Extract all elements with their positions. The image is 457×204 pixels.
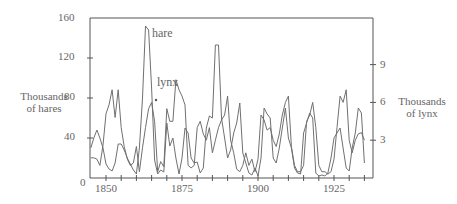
right-tick-6: 6 bbox=[380, 95, 386, 107]
x-tick-1900: 1900 bbox=[247, 182, 269, 194]
lynx-pointer bbox=[155, 99, 157, 101]
y-tick-160: 160 bbox=[58, 11, 75, 23]
y-tick-120: 120 bbox=[58, 50, 75, 62]
left-axis-label: Thousands of hares bbox=[14, 90, 74, 114]
x-tick-1850: 1850 bbox=[95, 182, 117, 194]
right-tick-3: 3 bbox=[380, 133, 386, 145]
left-axis-label-line2: of hares bbox=[14, 102, 74, 114]
lynx-annotation: lynx bbox=[157, 75, 178, 90]
y-tick-0: 0 bbox=[80, 176, 86, 188]
x-tick-1925: 1925 bbox=[323, 182, 345, 194]
y-tick-40: 40 bbox=[64, 130, 75, 142]
right-axis-label-line2: of lynx bbox=[390, 107, 454, 119]
right-axis-label-line1: Thousands bbox=[390, 95, 454, 107]
right-tick-9: 9 bbox=[380, 58, 386, 70]
x-tick-1875: 1875 bbox=[171, 182, 193, 194]
right-axis-label: Thousands of lynx bbox=[390, 95, 454, 119]
lynx-line bbox=[91, 80, 365, 175]
hare-annotation: hare bbox=[152, 26, 173, 41]
left-axis-label-line1: Thousands bbox=[14, 90, 74, 102]
